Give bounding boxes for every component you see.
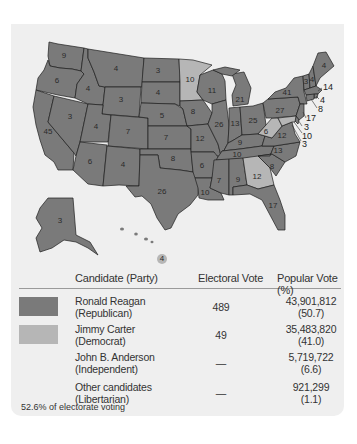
svg-text:7: 7 bbox=[126, 127, 131, 136]
svg-text:3: 3 bbox=[68, 112, 73, 121]
svg-text:4: 4 bbox=[114, 64, 119, 73]
svg-text:11: 11 bbox=[208, 86, 217, 95]
legend-swatch-democrat bbox=[19, 325, 58, 344]
svg-text:6: 6 bbox=[88, 157, 93, 166]
svg-text:4: 4 bbox=[322, 61, 327, 70]
candidate-name: Other candidates bbox=[75, 381, 152, 393]
svg-text:13: 13 bbox=[274, 146, 283, 155]
svg-text:4: 4 bbox=[160, 254, 165, 263]
candidate-name: John B. Anderson bbox=[75, 351, 155, 363]
svg-text:4: 4 bbox=[94, 122, 99, 131]
popular-vote-cell: 5,719,722 (6.6) bbox=[273, 351, 349, 375]
svg-text:9: 9 bbox=[62, 51, 67, 60]
candidate-name: Jimmy Carter bbox=[75, 323, 135, 335]
svg-text:4: 4 bbox=[310, 75, 315, 84]
electoral-vote-cell: — bbox=[201, 387, 241, 399]
svg-text:3: 3 bbox=[304, 77, 309, 86]
state-alaska bbox=[36, 198, 98, 255]
turnout-note: 52.6% of electorate voting bbox=[21, 402, 125, 412]
svg-text:26: 26 bbox=[215, 120, 224, 129]
candidate-cell: Ronald Reagan (Republican) bbox=[75, 295, 145, 319]
svg-text:3: 3 bbox=[156, 66, 161, 75]
svg-text:9: 9 bbox=[238, 138, 243, 147]
svg-text:41: 41 bbox=[283, 88, 292, 97]
state-connecticut bbox=[306, 94, 314, 101]
state-northdakota bbox=[142, 58, 180, 82]
popular-vote-cell: 43,901,812 (50.7) bbox=[273, 295, 349, 319]
svg-text:3: 3 bbox=[302, 139, 307, 149]
popular-vote-percent: (6.6) bbox=[273, 363, 349, 375]
svg-text:45: 45 bbox=[44, 127, 53, 136]
svg-text:6: 6 bbox=[55, 76, 60, 85]
state-kansas bbox=[148, 126, 191, 149]
popular-vote-count: 5,719,722 bbox=[273, 351, 349, 363]
svg-text:13: 13 bbox=[231, 119, 240, 128]
popular-vote-percent: (50.7) bbox=[273, 307, 349, 319]
header-candidate: Candidate (Party) bbox=[75, 272, 158, 284]
svg-text:3: 3 bbox=[119, 95, 124, 104]
popular-vote-cell: 921,299 (1.1) bbox=[273, 381, 349, 405]
electoral-vote-cell: 489 bbox=[201, 301, 241, 313]
svg-text:7: 7 bbox=[164, 133, 169, 142]
candidate-party: (Republican) bbox=[75, 307, 145, 319]
candidate-name: Ronald Reagan bbox=[75, 295, 145, 307]
popular-vote-cell: 35,483,820 (41.0) bbox=[273, 323, 349, 347]
svg-text:3: 3 bbox=[58, 216, 63, 225]
svg-text:10: 10 bbox=[201, 188, 210, 197]
header-electoral-vote: Electoral Vote bbox=[198, 272, 263, 284]
svg-text:12: 12 bbox=[253, 172, 262, 181]
candidate-party: (Independent) bbox=[75, 363, 155, 375]
candidate-cell: Jimmy Carter (Democrat) bbox=[75, 323, 135, 347]
svg-text:17: 17 bbox=[269, 201, 278, 210]
popular-vote-count: 921,299 bbox=[273, 381, 349, 393]
svg-text:9: 9 bbox=[236, 175, 241, 184]
svg-text:27: 27 bbox=[276, 106, 285, 115]
svg-text:10: 10 bbox=[186, 75, 195, 84]
popular-vote-percent: (41.0) bbox=[273, 335, 349, 347]
electoral-vote-cell: — bbox=[201, 357, 241, 369]
electoral-map: 9 6 45 4 3 4 3 4 6 7 4 3 4 5 7 8 26 10 8… bbox=[0, 0, 357, 265]
electoral-vote-cell: 49 bbox=[201, 329, 241, 341]
candidate-party: (Democrat) bbox=[75, 335, 135, 347]
svg-text:12: 12 bbox=[196, 134, 205, 143]
svg-text:4: 4 bbox=[156, 88, 161, 97]
svg-text:6: 6 bbox=[264, 127, 269, 136]
svg-text:8: 8 bbox=[318, 104, 323, 114]
results-table: Candidate (Party) Electoral Vote Popular… bbox=[11, 270, 344, 416]
popular-vote-percent: (1.1) bbox=[273, 393, 349, 405]
svg-text:25: 25 bbox=[249, 116, 258, 125]
state-southdakota bbox=[141, 82, 180, 106]
svg-text:6: 6 bbox=[200, 161, 205, 170]
svg-text:8: 8 bbox=[191, 107, 196, 116]
svg-text:8: 8 bbox=[270, 162, 275, 171]
svg-text:7: 7 bbox=[217, 176, 222, 185]
legend-swatch-republican bbox=[19, 297, 58, 316]
candidate-cell: John B. Anderson (Independent) bbox=[75, 351, 155, 375]
svg-text:4: 4 bbox=[121, 160, 126, 169]
svg-text:10: 10 bbox=[233, 150, 242, 159]
svg-text:12: 12 bbox=[278, 131, 287, 140]
svg-text:26: 26 bbox=[158, 187, 167, 196]
popular-vote-count: 35,483,820 bbox=[273, 323, 349, 335]
svg-text:4: 4 bbox=[86, 84, 91, 93]
svg-text:8: 8 bbox=[171, 154, 176, 163]
svg-text:14: 14 bbox=[323, 82, 333, 92]
table-header: Candidate (Party) Electoral Vote Popular… bbox=[19, 270, 341, 289]
svg-text:5: 5 bbox=[160, 111, 165, 120]
popular-vote-count: 43,901,812 bbox=[273, 295, 349, 307]
svg-text:21: 21 bbox=[236, 95, 245, 104]
